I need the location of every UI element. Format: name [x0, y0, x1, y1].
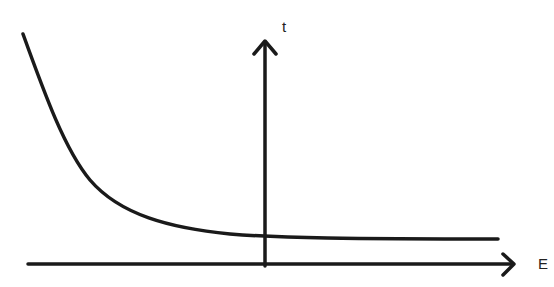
y-axis	[254, 41, 276, 266]
x-axis-label: E	[538, 255, 548, 272]
graph-canvas: t E	[0, 0, 554, 287]
y-axis-label: t	[282, 18, 287, 35]
decay-curve	[23, 34, 498, 239]
x-axis	[28, 254, 514, 275]
